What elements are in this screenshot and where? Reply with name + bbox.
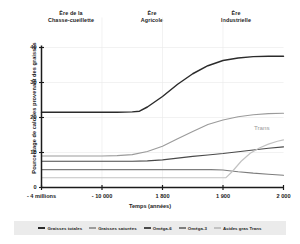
legend-label: Oméga-3 (188, 226, 207, 231)
legend-label: Graisses totales (47, 226, 82, 231)
legend-swatch-icon (214, 227, 221, 229)
plot-area (0, 0, 300, 244)
legend-item[interactable]: Acides gras Trans (214, 226, 262, 231)
legend-label: Acides gras Trans (223, 226, 262, 231)
legend-swatch-icon (179, 227, 186, 229)
legend-swatch-icon (89, 227, 96, 229)
legend-item[interactable]: Oméga-6 (144, 226, 172, 231)
chart-legend: Graisses totalesGraisses saturéesOméga-6… (14, 221, 286, 235)
chart-container: Ère de la Chasse-cueillette Ère Agricole… (0, 0, 300, 244)
legend-swatch-icon (38, 227, 45, 229)
legend-label: Graisses saturées (98, 226, 137, 231)
legend-label: Oméga-6 (153, 226, 172, 231)
legend-swatch-icon (144, 227, 151, 229)
legend-item[interactable]: Graisses totales (38, 226, 82, 231)
annotation-trans: Trans (254, 124, 270, 131)
legend-item[interactable]: Oméga-3 (179, 226, 207, 231)
legend-item[interactable]: Graisses saturées (89, 226, 137, 231)
